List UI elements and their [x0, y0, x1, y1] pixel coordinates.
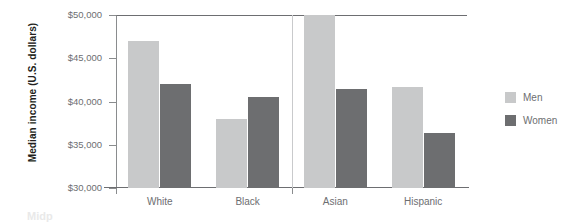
bar-asian-women [336, 89, 367, 188]
legend-swatch-icon [505, 92, 516, 103]
x-axis-category-label: Black [198, 196, 298, 207]
caption-fragment: Midp [27, 210, 53, 222]
bars-layer [0, 0, 575, 188]
x-axis-tick [292, 188, 293, 194]
legend-label: Men [523, 92, 542, 103]
y-axis-tick [109, 188, 116, 189]
bar-hispanic-men [392, 87, 423, 188]
bar-white-men [128, 41, 159, 188]
chart-legend: MenWomen [505, 92, 575, 138]
x-axis-category-label: White [110, 196, 210, 207]
x-axis-category-label: Asian [285, 196, 385, 207]
bar-white-women [160, 84, 191, 188]
bar-hispanic-women [424, 133, 455, 188]
legend-swatch-icon [505, 115, 516, 126]
bar-asian-men [304, 15, 335, 188]
legend-item-women: Women [505, 115, 575, 126]
x-axis-category-label: Hispanic [373, 196, 473, 207]
bar-chart-figure: Median income (U.S. dollars) $30,000$35,… [0, 0, 575, 223]
bar-black-men [216, 119, 247, 188]
legend-label: Women [523, 115, 557, 126]
bar-black-women [248, 97, 279, 188]
legend-item-men: Men [505, 92, 575, 103]
x-axis-origin-tick [116, 188, 117, 194]
